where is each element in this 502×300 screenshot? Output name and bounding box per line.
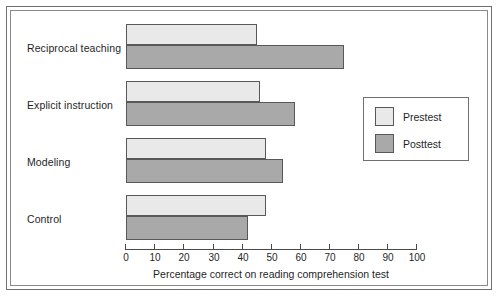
x-axis-tick-20 (183, 244, 184, 249)
dark-gray-swatch-icon (375, 134, 394, 153)
legend-label-posttest: Posttest (403, 138, 441, 150)
x-axis-tick-100 (416, 244, 417, 249)
category-label-explicit-instruction: Explicit instruction (27, 99, 113, 111)
category-label-control: Control (27, 213, 62, 225)
bar-explicit-instruction-prestest (126, 81, 260, 102)
light-gray-swatch-icon (375, 107, 394, 126)
x-axis-tick-label-10: 10 (140, 252, 170, 263)
category-label-modeling: Modeling (27, 156, 70, 168)
x-axis-tick-label-20: 20 (169, 252, 199, 263)
category-label-reciprocal-teaching: Reciprocal teaching (27, 42, 121, 54)
x-axis-tick-80 (358, 244, 359, 249)
bar-explicit-instruction-posttest (126, 102, 295, 126)
x-axis-tick-label-60: 60 (286, 252, 316, 263)
bar-modeling-posttest (126, 159, 283, 183)
x-axis-tick-label-50: 50 (257, 252, 287, 263)
x-axis-tick-label-0: 0 (111, 252, 141, 263)
x-axis-tick-60 (300, 244, 301, 249)
bar-chart-plot-area: Reciprocal teaching Explicit instruction… (11, 11, 497, 295)
legend-entry-prestest: Prestest (375, 107, 442, 126)
legend-entry-posttest: Posttest (375, 134, 441, 153)
x-axis-tick-30 (213, 244, 214, 249)
figure-inner-frame: Reciprocal teaching Explicit instruction… (10, 10, 488, 286)
x-axis-tick-50 (271, 244, 272, 249)
x-axis-tick-70 (329, 244, 330, 249)
x-axis-tick-label-30: 30 (199, 252, 229, 263)
x-axis-tick-label-100: 100 (402, 252, 432, 263)
x-axis-tick-label-80: 80 (344, 252, 374, 263)
bar-control-prestest (126, 195, 266, 216)
x-axis-tick-label-90: 90 (373, 252, 403, 263)
chart-legend: Prestest Posttest (363, 97, 469, 161)
x-axis-line (125, 249, 417, 250)
x-axis-tick-label-70: 70 (315, 252, 345, 263)
bar-reciprocal-teaching-posttest (126, 45, 344, 69)
bar-reciprocal-teaching-prestest (126, 24, 257, 45)
x-axis-tick-90 (387, 244, 388, 249)
x-axis-tick-10 (154, 244, 155, 249)
x-axis-tick-0 (125, 244, 126, 249)
x-axis-title: Percentage correct on reading comprehens… (115, 268, 427, 280)
bar-control-posttest (126, 216, 248, 240)
legend-label-prestest: Prestest (403, 111, 442, 123)
figure-outer-frame: Reciprocal teaching Explicit instruction… (6, 6, 492, 290)
x-axis-tick-40 (242, 244, 243, 249)
x-axis-tick-label-40: 40 (228, 252, 258, 263)
bar-modeling-prestest (126, 138, 266, 159)
